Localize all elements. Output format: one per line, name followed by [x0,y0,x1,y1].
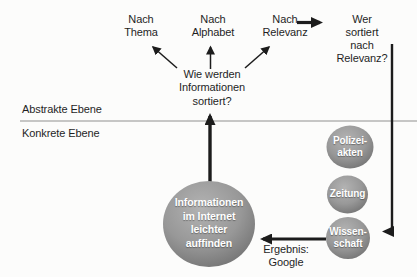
label-nach-alphabet: Nach Alphabet [192,13,235,39]
wissenschaft-node-label: Wissen- schaft [329,226,367,250]
label-konkrete-ebene: Konkrete Ebene [22,127,100,140]
diagram-canvas: Nach Thema Nach Alphabet Nach Relevanz W… [0,0,417,277]
label-nach-relevanz: Nach Relevanz [262,13,307,39]
label-nach-thema: Nach Thema [124,13,158,39]
zeitung-node-label: Zeitung [330,188,365,200]
connector-wer-sortiert-to-wissenschaft [385,44,392,232]
label-ergebnis-google: Ergebnis: Google [263,243,309,269]
label-abstrakte-ebene: Abstrakte Ebene [22,103,102,116]
arrow-question-to-relevanz [245,47,269,68]
label-question: Wie werden Informationen sortiert? [179,68,245,108]
arrow-question-to-thema [153,47,177,68]
polizeiakten-node-label: Polizei- akten [333,135,367,159]
label-wer-sortiert: Wer sortiert nach Relevanz? [335,13,390,65]
goal-node-label: Informationen im Internet leichter auffi… [175,196,244,251]
